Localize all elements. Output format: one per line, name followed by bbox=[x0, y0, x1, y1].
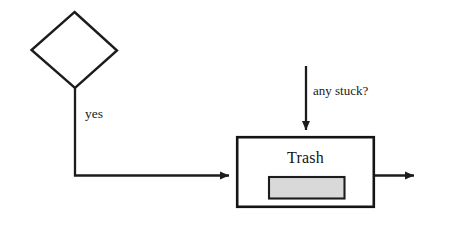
edge-label-any-stuck: any stuck? bbox=[313, 84, 368, 97]
node-trash-queue-bar[interactable] bbox=[269, 177, 345, 199]
node-trash-label: Trash bbox=[236, 150, 375, 166]
diagram-canvas: yes any stuck? Trash bbox=[0, 0, 458, 241]
node-decision-diamond[interactable] bbox=[32, 12, 118, 88]
diagram-graphics bbox=[0, 0, 458, 241]
edge-label-yes: yes bbox=[85, 107, 103, 121]
edge-decision-to-trash bbox=[75, 88, 229, 176]
